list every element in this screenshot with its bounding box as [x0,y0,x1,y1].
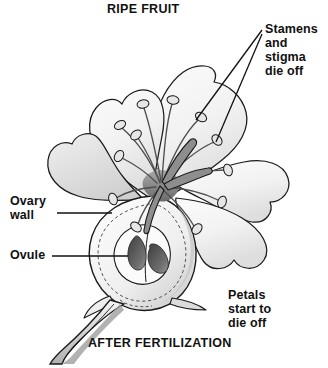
pedicel-stalk-group [50,300,124,364]
page-title: RIPE FRUIT [107,2,179,16]
sepal-right [170,298,206,310]
label-petals-start-to-die-off: Petals start to die off [228,288,271,330]
figure-caption: AFTER FERTILIZATION [88,336,232,350]
label-ovule: Ovule [10,248,45,262]
pedicel-stalk [50,300,124,364]
label-stamens-and-stigma-die-off: Stamens and stigma die off [265,22,318,78]
label-ovary-wall: Ovary wall [10,194,46,222]
diagram-page: RIPE FRUIT Stamens and stigma die off Ov… [0,0,328,368]
